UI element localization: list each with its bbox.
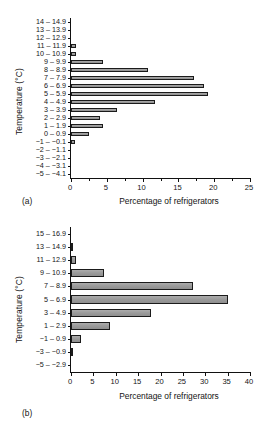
y-axis-tick-label: 13 – 14.9 — [36, 243, 66, 250]
panel-label-b: (b) — [22, 408, 32, 418]
x-axis-tick — [107, 178, 108, 182]
bar — [71, 92, 208, 97]
y-axis-tick-label: 9 – 10.9 — [40, 270, 66, 277]
x-axis-tick-label: 15 — [133, 377, 141, 386]
bar — [71, 140, 75, 145]
x-axis-tick-label: 0 — [68, 183, 72, 192]
y-axis-tick — [68, 46, 71, 47]
bar — [71, 116, 100, 121]
bar — [71, 295, 228, 303]
y-axis-tick — [68, 102, 71, 103]
bar — [71, 132, 89, 137]
y-axis-tick-label: −5 – −4.1 — [36, 170, 66, 177]
x-axis-minor-tick — [89, 178, 90, 181]
bar — [71, 322, 110, 330]
y-axis-tick — [68, 247, 71, 248]
x-axis-tick — [250, 372, 251, 376]
x-axis-tick-label: 40 — [245, 377, 253, 386]
y-axis-tick — [68, 286, 71, 287]
y-axis-tick — [68, 174, 71, 175]
y-axis-tick-label: 15 – 16.9 — [36, 230, 66, 237]
y-axis-tick — [68, 126, 71, 127]
y-axis-tick-label: 11 – 12.9 — [37, 256, 66, 263]
y-axis-tick — [68, 300, 71, 301]
panel-a-figure: Temperature (°C)14 – 14.913 – 13.912 – 1… — [0, 0, 278, 215]
y-axis-tick — [68, 339, 71, 340]
bar — [71, 282, 193, 290]
x-axis-tick-label: 5 — [90, 377, 94, 386]
x-axis-tick — [71, 372, 72, 376]
y-axis-tick — [68, 142, 71, 143]
x-axis-tick-label: 25 — [178, 377, 186, 386]
x-axis-title: Percentage of refrigerators — [0, 196, 278, 206]
x-axis-tick — [161, 372, 162, 376]
y-axis-tick — [68, 260, 71, 261]
x-axis-tick-label: 20 — [209, 183, 217, 192]
x-axis-tick — [116, 372, 117, 376]
y-axis-tick — [68, 78, 71, 79]
y-axis-tick-label: 1 – 2.9 — [44, 322, 66, 329]
y-axis-tick-label: 7 – 8.9 — [44, 283, 66, 290]
y-axis-tick — [68, 118, 71, 119]
y-axis-tick — [68, 22, 71, 23]
y-axis-tick — [68, 62, 71, 63]
panel-label-a: (a) — [22, 196, 32, 206]
y-axis-tick — [68, 30, 71, 31]
y-axis-tick — [68, 110, 71, 111]
y-axis-tick — [68, 86, 71, 87]
bar — [71, 309, 151, 317]
bar — [71, 243, 73, 251]
x-axis-tick — [228, 372, 229, 376]
y-axis-tick — [68, 54, 71, 55]
bar — [71, 256, 76, 264]
bar — [71, 44, 76, 49]
bar — [71, 60, 103, 65]
x-axis-tick — [250, 178, 251, 182]
x-axis-minor-tick — [125, 178, 126, 181]
y-axis-tick — [68, 150, 71, 151]
x-axis-tick — [205, 372, 206, 376]
plot-area-b — [70, 227, 250, 373]
plot-area-a — [70, 18, 250, 179]
y-axis-tick — [68, 166, 71, 167]
y-axis-tick — [68, 365, 71, 366]
x-axis-minor-tick — [232, 178, 233, 181]
panel-b-figure: Temperature (°C)15 – 16.913 – 14.911 – 1… — [0, 215, 278, 435]
x-axis-tick-label: 15 — [173, 183, 181, 192]
x-axis-tick-label: 5 — [104, 183, 108, 192]
x-axis-tick — [71, 178, 72, 182]
y-axis-tick-label: −1 – 0.9 — [40, 335, 66, 342]
bar — [71, 348, 73, 356]
x-axis-tick — [143, 178, 144, 182]
bar — [71, 84, 204, 89]
x-axis-tick-label: 35 — [222, 377, 230, 386]
y-axis-tick — [68, 313, 71, 314]
y-axis-tick-label: −3 – −0.9 — [36, 349, 66, 356]
x-axis-minor-tick — [161, 178, 162, 181]
y-axis-tick-labels: 15 – 16.913 – 14.911 – 12.99 – 10.97 – 8… — [0, 227, 66, 372]
x-axis-tick — [93, 372, 94, 376]
y-axis-tick — [68, 234, 71, 235]
y-axis-tick — [68, 326, 71, 327]
bar — [71, 52, 76, 57]
x-axis-tick — [214, 178, 215, 182]
bar — [71, 68, 148, 73]
bar — [71, 108, 117, 113]
x-axis-tick-label: 25 — [245, 183, 253, 192]
y-axis-tick — [68, 134, 71, 135]
y-axis-tick — [68, 70, 71, 71]
bar — [71, 269, 104, 277]
x-axis-tick-label: 20 — [155, 377, 163, 386]
x-axis-minor-tick — [196, 178, 197, 181]
x-axis-title: Percentage of refrigerators — [0, 391, 278, 401]
x-axis-tick — [183, 372, 184, 376]
y-axis-tick — [68, 273, 71, 274]
y-axis-tick — [68, 94, 71, 95]
bar — [71, 76, 194, 81]
y-axis-tick — [68, 352, 71, 353]
bar — [71, 100, 155, 105]
y-axis-tick-label: 5 – 6.9 — [44, 296, 66, 303]
y-axis-tick-labels: 14 – 14.913 – 13.912 – 12.911 – 11.910 –… — [0, 18, 66, 178]
x-axis-tick — [178, 178, 179, 182]
y-axis-tick-label: −5 – −2.9 — [36, 362, 66, 369]
